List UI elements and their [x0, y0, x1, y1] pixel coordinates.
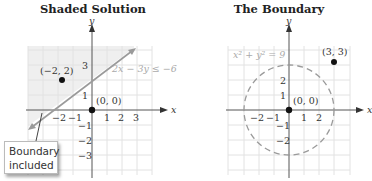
boundary-panel: The Boundary (3, 3) (0, 0) y x x² + y² =… — [186, 0, 372, 181]
svg-text:3: 3 — [133, 112, 139, 123]
test-point-label: (−2, 2) — [40, 65, 74, 76]
svg-text:1: 1 — [104, 112, 110, 123]
boundary-callout: Boundary included — [4, 141, 58, 174]
svg-text:−1: −1 — [78, 120, 92, 131]
svg-text:2: 2 — [280, 75, 286, 86]
svg-text:−3: −3 — [78, 150, 92, 161]
svg-text:−2: −2 — [52, 112, 66, 123]
svg-text:3: 3 — [82, 60, 88, 71]
svg-text:x: x — [171, 104, 177, 115]
origin-point — [89, 107, 95, 113]
equation-label: x² + y² = 9 — [233, 49, 285, 60]
svg-text:1: 1 — [82, 90, 88, 101]
svg-text:2: 2 — [316, 112, 322, 123]
inequality-label: 2x − 3y ≤ −6 — [111, 63, 177, 74]
svg-text:−2: −2 — [78, 135, 92, 146]
circle-graph: (3, 3) (0, 0) y x x² + y² = 9 −2 −1 1 2 … — [186, 0, 372, 181]
svg-text:1: 1 — [301, 112, 307, 123]
shaded-solution-panel: Shaded Solution (−2, 2) (0, 0) y x 2x − … — [0, 0, 186, 181]
svg-text:x: x — [367, 104, 372, 115]
svg-text:1: 1 — [280, 90, 286, 101]
svg-text:−2: −2 — [250, 112, 264, 123]
test-point — [59, 77, 65, 83]
svg-text:(3, 3): (3, 3) — [322, 46, 348, 57]
origin-label: (0, 0) — [96, 95, 122, 106]
svg-text:−1: −1 — [276, 120, 290, 131]
svg-text:y: y — [285, 15, 292, 26]
svg-text:2: 2 — [118, 112, 124, 123]
svg-text:y: y — [88, 15, 95, 26]
svg-text:(0, 0): (0, 0) — [293, 95, 319, 106]
outside-point — [331, 59, 337, 65]
svg-text:−2: −2 — [276, 135, 290, 146]
origin-point — [286, 107, 292, 113]
